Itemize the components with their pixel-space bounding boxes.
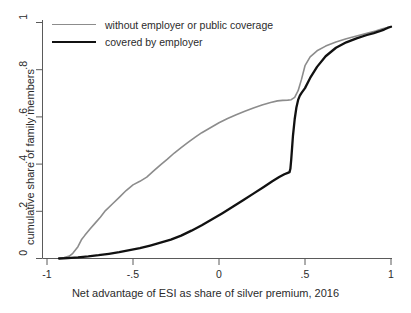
legend-label-without-coverage: without employer or public coverage <box>105 19 273 31</box>
xtick-label-neg1: -1 <box>42 268 51 280</box>
legend-item-without-coverage: without employer or public coverage <box>52 16 273 33</box>
series-layer <box>59 27 391 259</box>
xtick-label-05: .5 <box>301 268 310 280</box>
xtick-label-0: 0 <box>216 268 222 280</box>
series-line-covered-by-employer <box>59 27 391 259</box>
legend-item-covered-by-employer: covered by employer <box>52 33 273 50</box>
y-axis-title: cumulative share of family members <box>24 39 36 275</box>
ytick-label-1: 1 <box>17 14 29 32</box>
y-tick-marks <box>36 23 43 259</box>
x-tick-marks <box>47 259 391 266</box>
legend-label-covered-by-employer: covered by employer <box>105 36 202 48</box>
legend-line-icon-covered-by-employer <box>52 41 96 43</box>
x-axis-title: Net advantage of ESI as share of silver … <box>0 287 411 299</box>
xtick-label-neg05: -.5 <box>127 268 139 280</box>
series-line-without-coverage <box>59 27 391 259</box>
chart-legend: without employer or public coverage cove… <box>52 16 273 50</box>
legend-line-icon-without-coverage <box>52 24 96 25</box>
xtick-label-1: 1 <box>388 268 394 280</box>
chart-figure: 1 .8 .6 .4 .2 0 -1 -.5 0 .5 1 Net advant… <box>0 0 411 313</box>
